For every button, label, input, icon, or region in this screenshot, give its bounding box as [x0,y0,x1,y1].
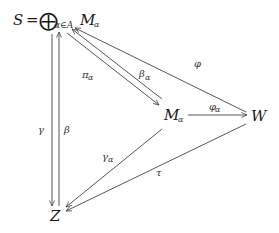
label-beta-alpha: β α [138,68,151,82]
commutative-diagram: S = ⨁ α∈A M α M α W Z π α β α φ φ α γ β … [0,0,279,233]
svg-text:α: α [145,73,151,82]
svg-text:β: β [138,68,145,79]
label-phi-alpha: φ α [209,101,221,114]
node-M-alpha: M α [163,106,184,124]
svg-text:α: α [215,105,221,114]
equals-sign: = [26,11,39,29]
label-gamma: γ [38,124,44,135]
label-pi-alpha: π α [81,69,94,82]
node-W: W [251,107,268,125]
label-phi: φ [194,58,201,69]
label-gamma-alpha: γ α [102,151,114,164]
label-beta: β [63,124,70,135]
node-Z: Z [49,207,61,225]
summand-subscript: α [94,20,100,29]
svg-text:α: α [88,73,94,82]
label-tau: τ [156,167,162,178]
arrow-phi [75,28,246,112]
node-M-subscript: α [178,115,184,124]
sum-index: α∈A [54,20,74,30]
node-S-lhs: S [13,11,23,29]
svg-text:α: α [108,155,114,164]
node-S-direct-sum: S = ⨁ α∈A M α [13,9,100,31]
arrow-gamma-alpha [66,129,162,207]
arrow-pi-alpha [67,33,159,105]
